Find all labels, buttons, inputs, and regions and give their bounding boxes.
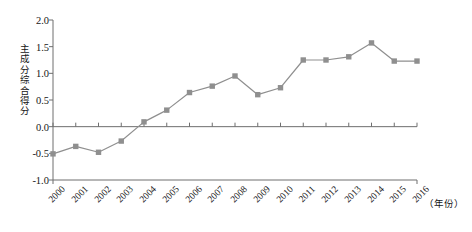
y-tick-label: -1.0 <box>24 175 49 186</box>
x-tick-label: 2003 <box>115 184 136 205</box>
y-tick-label: -0.5 <box>24 148 49 159</box>
x-tick-label: 2006 <box>183 184 204 205</box>
y-tick-label: 0.0 <box>24 121 49 132</box>
x-tick-label: 2013 <box>342 184 363 205</box>
data-point-marker <box>50 151 55 156</box>
data-point-marker <box>210 83 215 88</box>
data-point-marker <box>414 58 419 63</box>
data-point-marker <box>392 58 397 63</box>
x-tick-label: 2000 <box>47 184 68 205</box>
x-tick-label: 2014 <box>365 184 386 205</box>
data-point-marker <box>119 138 124 143</box>
y-tick-label: 1.5 <box>24 41 49 52</box>
data-point-marker <box>232 73 237 78</box>
data-point-marker <box>369 40 374 45</box>
x-tick-label: 2012 <box>320 184 341 205</box>
x-tick-label: 2008 <box>229 184 250 205</box>
series-line <box>53 43 417 154</box>
data-point-marker <box>164 107 169 112</box>
data-point-marker <box>73 144 78 149</box>
data-point-marker <box>346 54 351 59</box>
x-tick-label: 2009 <box>251 184 272 205</box>
x-tick-label: 2007 <box>206 184 227 205</box>
y-tick-label: 1.0 <box>24 68 49 79</box>
x-tick-label: 2002 <box>92 184 113 205</box>
data-point-marker <box>301 57 306 62</box>
principal-component-score-line-chart: 主成分综合得分 2.01.51.00.50.0-0.5-1.0 20002001… <box>0 0 472 232</box>
data-point-marker <box>323 57 328 62</box>
data-point-marker <box>141 119 146 124</box>
x-tick-label: 2010 <box>274 184 295 205</box>
plot-area <box>53 20 417 180</box>
x-tick-label: 2001 <box>69 184 90 205</box>
x-axis-tick-labels: 2000200120022003200420052006200720082009… <box>53 180 417 230</box>
y-tick-label: 0.5 <box>24 95 49 106</box>
x-tick-label: 2011 <box>297 184 317 204</box>
data-point-marker <box>278 85 283 90</box>
x-tick-label: 2015 <box>388 184 409 205</box>
y-axis-tick-labels: 2.01.51.00.50.0-0.5-1.0 <box>24 0 49 232</box>
x-tick-label: 2004 <box>138 184 159 205</box>
series-svg <box>53 20 417 180</box>
y-tick-label: 2.0 <box>24 15 49 26</box>
x-axis-unit-label: （年份） <box>424 196 464 210</box>
data-point-marker <box>187 90 192 95</box>
x-tick-label: 2005 <box>160 184 181 205</box>
data-point-marker <box>255 92 260 97</box>
data-point-marker <box>96 150 101 155</box>
